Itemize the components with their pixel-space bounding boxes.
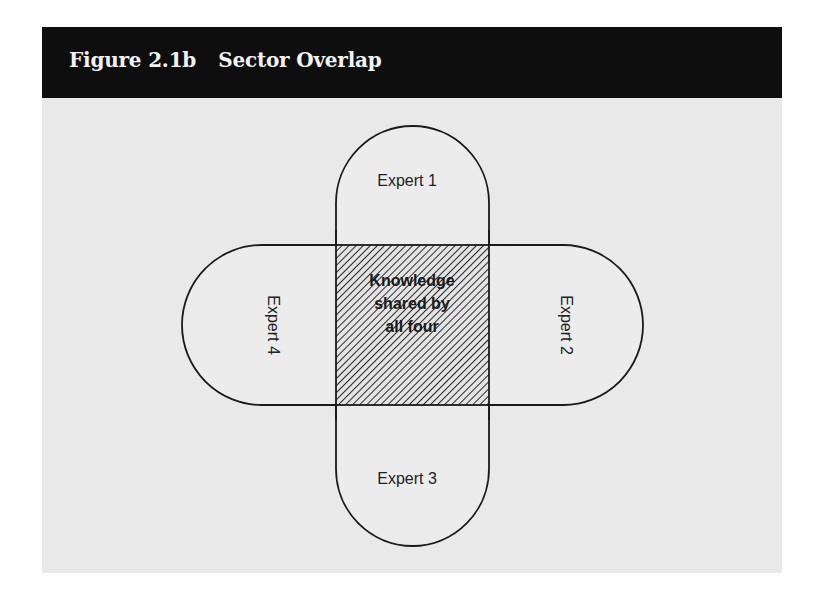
lobe-expert-4: [182, 245, 336, 405]
sector-overlap-diagram: Expert 1 Expert 3 Expert 4 Expert 2 Know…: [0, 0, 822, 601]
expert-3-label: Expert 3: [377, 470, 437, 487]
expert-1-label: Expert 1: [377, 172, 437, 189]
center-label-line-1: Knowledge: [369, 272, 454, 289]
center-label-line-3: all four: [385, 318, 438, 335]
expert-4-label: Expert 4: [265, 295, 282, 355]
center-label-line-2: shared by: [374, 295, 450, 312]
expert-2-label: Expert 2: [558, 295, 575, 355]
